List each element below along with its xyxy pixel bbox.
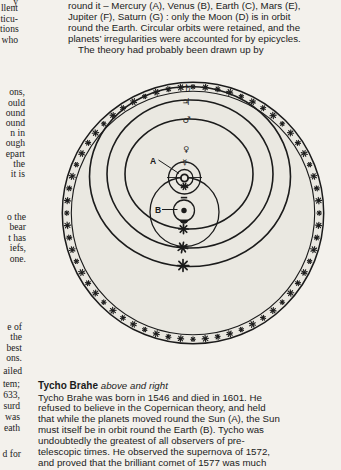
tychonic-system-diagram: ♄ ♃ ♂ ♀ ☿ A B [48,74,341,352]
earth-symbol [181,208,186,213]
caption-block: Tycho Brahe above and right Tycho Brahe … [38,381,336,469]
intro-paragraph: round it – Mercury (A), Venus (B), Earth… [68,1,340,55]
label-a: A [150,156,156,166]
caption-line: and proved that the brilliant comet of 1… [38,458,336,469]
left-column-fragment: e of [0,322,26,332]
left-column-fragment: ough [0,138,26,148]
left-column-fragment: eath [0,423,26,433]
left-column-fragment: ound [0,118,26,128]
caption-heading: Tycho Brahe above and right [38,381,336,393]
intro-line: planets’ irregularities were accounted f… [68,34,340,45]
saturn-symbol: ♄ [184,82,193,93]
left-column-fragment: o the [0,212,26,222]
left-column-fragment: the [0,159,26,169]
left-column-fragment: 633, [0,390,26,400]
left-column-fragment: best [0,343,26,353]
left-column-fragment: t has [0,233,26,243]
sun-symbol [181,174,188,181]
left-column-fragment: ould [0,98,26,108]
moon-top-tick [181,197,187,199]
caption-title: Tycho Brahe [38,380,98,391]
left-column-fragment: bear [0,222,26,232]
left-column-fragment: tem; [0,379,26,389]
intro-line: The theory had probably been drawn up by [68,45,340,56]
left-column-fragment: one. [0,254,26,264]
left-column-fragment: iefs, [0,243,26,253]
left-column-fragment: tions [0,24,26,34]
mars-symbol: ♂ [182,115,190,125]
left-column-fragment: who [0,35,26,45]
label-b: B [155,205,161,215]
left-column-fragment: ticu- [0,14,26,24]
left-column-fragment: epart [0,149,26,159]
caption-subtitle: above and right [101,380,168,391]
mercury-symbol: ☿ [183,158,188,167]
left-column-fragment: ound [0,108,26,118]
left-column-fragment: it is [0,169,26,179]
left-column-fragment: ailed [0,366,26,376]
book-page: y llent ticu- tions who ons, ould ound o… [0,0,341,470]
left-column-fragment: the [0,332,26,342]
left-column-fragment: was [0,412,26,422]
jupiter-symbol: ♃ [182,96,191,107]
left-column-fragment: ons, [0,87,26,97]
left-column-fragment: d for [0,449,26,459]
left-column-fragment: surd [0,401,26,411]
left-column-fragment: ons. [0,353,26,363]
venus-symbol: ♀ [183,145,189,154]
left-column-fragment: llent [0,3,26,13]
